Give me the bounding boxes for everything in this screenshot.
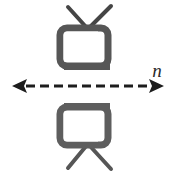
axis-arrow-group (12, 79, 164, 93)
axis-label-n: n (144, 60, 170, 82)
arrowhead-left-icon (12, 79, 27, 93)
mirror-symmetry-figure: n (0, 0, 175, 173)
mirror-axis-arrow (0, 0, 175, 173)
